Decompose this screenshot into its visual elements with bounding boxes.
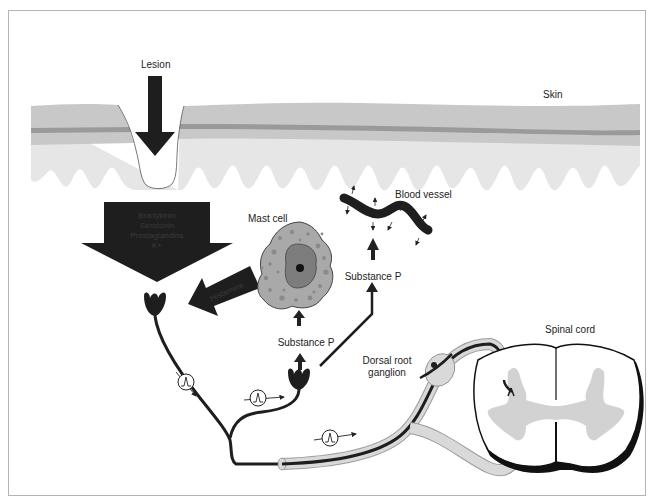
action-potential-icon: [176, 372, 196, 396]
lesion-label: Lesion: [141, 59, 170, 70]
spinal-cord-body: [474, 344, 640, 467]
substance-p-lower-label: Substance P: [278, 337, 335, 348]
basal-layer-left: [31, 127, 136, 133]
diagram-svg: Skin Lesion Bradykinin Serotonin Prostag…: [0, 0, 657, 504]
substance-p-upper-label: Substance P: [345, 271, 402, 282]
mast-cell: Mast cell: [248, 213, 333, 309]
nerve-ending-left: [144, 292, 166, 316]
mast-cell-nucleolus: [296, 264, 304, 272]
up-arrow-icon: [366, 282, 378, 292]
mast-cell-label: Mast cell: [248, 213, 287, 224]
up-arrow-icon: [293, 310, 305, 326]
histamine-arrow: Histamine: [188, 266, 260, 316]
skin-label: Skin: [543, 89, 562, 100]
afferent-axon: [155, 316, 282, 464]
up-arrow-icon: [367, 238, 379, 260]
action-potential-icon: [244, 390, 284, 406]
up-arrow-icon: [294, 353, 306, 370]
action-potential-icon: [314, 430, 356, 446]
drg-label-line1: Dorsal root: [363, 355, 412, 366]
mediator-bradykinin: Bradykinin: [138, 211, 175, 220]
blood-vessel: Blood vessel: [344, 186, 452, 245]
blood-vessel-label: Blood vessel: [395, 189, 452, 200]
mediators-arrow: Bradykinin Serotonin Prostaglandins K+: [81, 202, 233, 282]
ganglion-cell-body: [431, 362, 437, 368]
drg-label-line2: ganglion: [368, 367, 406, 378]
mediator-prostaglandins: Prostaglandins: [131, 231, 184, 240]
mediator-potassium: K+: [152, 241, 162, 250]
epidermis-left: [31, 104, 134, 145]
spinal-cord-label: Spinal cord: [545, 324, 595, 335]
blood-vessel-tube: [344, 198, 428, 230]
diagram-canvas: Skin Lesion Bradykinin Serotonin Prostag…: [0, 0, 657, 504]
skin-layer: Skin: [31, 89, 640, 190]
nerve-ending-right: [288, 368, 310, 390]
mediator-serotonin: Serotonin: [140, 221, 174, 230]
